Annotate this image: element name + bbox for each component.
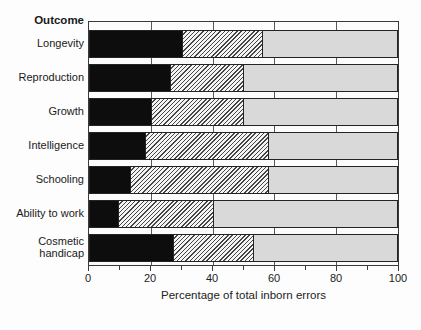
category-label-schooling: Schooling (0, 166, 84, 194)
diagonal-hatch-segment (151, 99, 243, 125)
bar-cosmetic-handicap (89, 234, 398, 262)
diagonal-hatch-segment (145, 133, 268, 159)
x-tick-0 (88, 266, 89, 271)
x-tick-label-100: 100 (381, 272, 415, 284)
stacked-bar-figure: Outcome LongevityReproductionGrowthIntel… (0, 0, 421, 330)
light-gray-segment (268, 133, 397, 159)
category-label-longevity: Longevity (0, 30, 84, 58)
light-gray-segment (243, 65, 397, 91)
solid-black-segment (90, 201, 118, 227)
category-label-growth: Growth (0, 98, 84, 126)
x-tick-label-80: 80 (319, 272, 353, 284)
bar-longevity (89, 30, 398, 58)
diagonal-hatch-segment (182, 31, 262, 57)
x-tick-80 (336, 266, 337, 271)
x-tick-label-40: 40 (195, 272, 229, 284)
light-gray-segment (213, 201, 397, 227)
diagonal-hatch-segment (130, 167, 268, 193)
solid-black-segment (90, 167, 130, 193)
bar-growth (89, 98, 398, 126)
category-label-cosmetic-handicap: Cosmetic handicap (0, 234, 84, 262)
category-label-ability-to-work: Ability to work (0, 200, 84, 228)
x-tick-label-0: 0 (71, 272, 105, 284)
diagonal-hatch-segment (173, 235, 253, 261)
solid-black-segment (90, 31, 182, 57)
bar-schooling (89, 166, 398, 194)
x-tick-40 (212, 266, 213, 271)
x-tick-100 (398, 266, 399, 271)
diagonal-hatch-segment (118, 201, 213, 227)
bar-reproduction (89, 64, 398, 92)
solid-black-segment (90, 99, 151, 125)
diagonal-hatch-segment (170, 65, 244, 91)
x-minor-tick-70 (305, 266, 306, 270)
x-tick-label-20: 20 (133, 272, 167, 284)
x-minor-tick-10 (119, 266, 120, 270)
category-label-intelligence: Intelligence (0, 132, 84, 160)
x-minor-tick-50 (243, 266, 244, 270)
x-tick-20 (150, 266, 151, 271)
solid-black-segment (90, 65, 170, 91)
solid-black-segment (90, 133, 145, 159)
light-gray-segment (243, 99, 397, 125)
light-gray-segment (262, 31, 397, 57)
x-axis-title: Percentage of total inborn errors (88, 289, 399, 301)
light-gray-segment (268, 167, 397, 193)
x-tick-60 (274, 266, 275, 271)
y-axis-header: Outcome (0, 13, 84, 27)
x-minor-tick-90 (367, 266, 368, 270)
x-tick-label-60: 60 (257, 272, 291, 284)
solid-black-segment (90, 235, 173, 261)
category-label-reproduction: Reproduction (0, 64, 84, 92)
light-gray-segment (253, 235, 397, 261)
x-minor-tick-30 (181, 266, 182, 270)
bar-ability-to-work (89, 200, 398, 228)
plot-area (88, 21, 399, 266)
bar-intelligence (89, 132, 398, 160)
